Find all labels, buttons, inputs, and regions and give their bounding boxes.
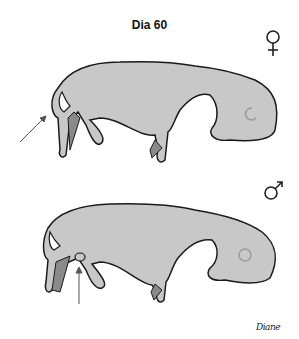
male-arrow-icon [76,267,82,304]
artist-signature: Diane [256,322,280,332]
embryo-illustrations [0,0,299,339]
male-symbol-icon [265,182,282,199]
male-embryo [44,204,276,302]
female-embryo [52,62,277,162]
female-symbol-icon [267,31,279,56]
figure: Dia 60 [0,0,299,339]
female-arrow-icon [20,116,46,142]
